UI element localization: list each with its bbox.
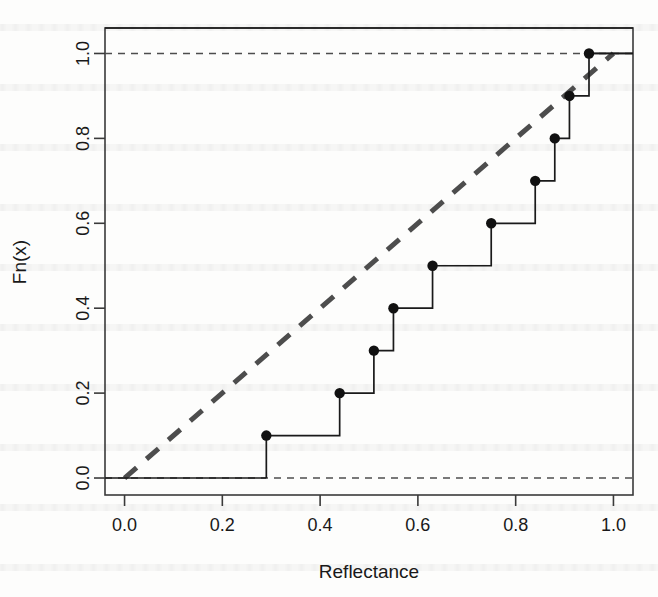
x-tick-label: 0.4	[308, 515, 333, 535]
reference-lines-layer	[105, 53, 633, 478]
uniform-reference-diagonal	[125, 53, 614, 478]
y-tick-label: 0.8	[73, 126, 93, 151]
ecdf-step-line	[105, 28, 633, 478]
y-tick-label: 0.4	[73, 296, 93, 321]
y-tick-label: 0.6	[73, 211, 93, 236]
ecdf-point	[486, 218, 496, 228]
figure-panel: 0.00.20.40.60.81.0 0.00.20.40.60.81.0 Re…	[0, 0, 658, 597]
y-tick-label: 1.0	[73, 41, 93, 66]
x-axis-title: Reflectance	[319, 561, 419, 582]
ecdf-point	[261, 430, 271, 440]
x-tick-label: 1.0	[601, 515, 626, 535]
ecdf-plot: 0.00.20.40.60.81.0 0.00.20.40.60.81.0 Re…	[0, 0, 658, 597]
y-tick-label: 0.2	[73, 381, 93, 406]
ecdf-point	[388, 303, 398, 313]
x-tick-label: 0.2	[210, 515, 235, 535]
y-tick-label: 0.0	[73, 466, 93, 491]
x-tick-label: 0.8	[503, 515, 528, 535]
x-tick-label: 0.6	[405, 515, 430, 535]
x-axis-ticks	[125, 495, 614, 506]
plot-frame	[105, 28, 633, 495]
ecdf-point	[369, 345, 379, 355]
ecdf-point	[334, 388, 344, 398]
ecdf-point	[530, 176, 540, 186]
y-axis-tick-labels: 0.00.20.40.60.81.0	[73, 41, 93, 491]
ecdf-point	[550, 133, 560, 143]
ecdf-point	[584, 48, 594, 58]
ecdf-data-points	[261, 48, 594, 440]
ecdf-point	[427, 261, 437, 271]
x-tick-label: 0.0	[112, 515, 137, 535]
ecdf-point	[564, 91, 574, 101]
x-axis-tick-labels: 0.00.20.40.60.81.0	[112, 515, 626, 535]
ecdf-step-path	[266, 53, 633, 478]
y-axis-title: Fn(x)	[9, 240, 30, 284]
y-axis-ticks	[94, 53, 105, 478]
